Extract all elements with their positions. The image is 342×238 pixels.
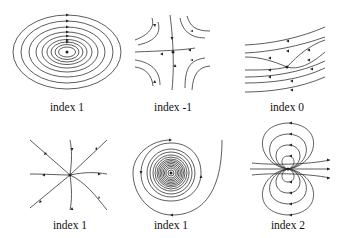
panel-saddle [135, 15, 210, 90]
panel-dipole [250, 122, 330, 217]
panel-spiral [133, 139, 222, 217]
panel-label-flow: index 0 [237, 101, 337, 113]
panel-label-spiral: index 1 [121, 219, 221, 231]
panel-label-dipole: index 2 [238, 219, 338, 231]
panel-node [30, 140, 107, 210]
panel-center [13, 14, 121, 90]
panel-flow [245, 27, 325, 92]
panel-label-saddle: index -1 [123, 101, 223, 113]
panel-label-center: index 1 [17, 101, 117, 113]
panel-label-node: index 1 [20, 219, 120, 231]
index-diagram [0, 0, 342, 238]
